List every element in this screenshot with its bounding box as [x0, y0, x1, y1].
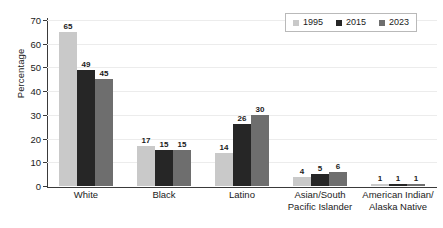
bar-value-label: 15: [178, 141, 187, 149]
bar-value-label: 26: [238, 115, 247, 123]
bar-value-label: 15: [160, 141, 169, 149]
y-tick-label: 20: [30, 133, 41, 144]
y-tick-mark: [43, 139, 47, 140]
y-tick-label: 40: [30, 86, 41, 97]
bar-group: 171515Black: [137, 20, 191, 186]
bar[interactable]: 1: [389, 184, 407, 186]
bar[interactable]: 15: [173, 150, 191, 186]
legend: 199520152023: [285, 13, 417, 32]
bar-value-label: 30: [256, 106, 265, 114]
bars: 456: [293, 20, 347, 186]
bar-group: 456Asian/SouthPacific Islander: [293, 20, 347, 186]
bars: 111: [371, 20, 425, 186]
bars: 142630: [215, 20, 269, 186]
x-axis-line: [47, 187, 437, 188]
bar[interactable]: 1: [407, 184, 425, 186]
bar-value-label: 1: [414, 175, 418, 183]
legend-swatch-icon: [293, 20, 299, 26]
plot-area: 010203040506070 654945White171515Black14…: [47, 20, 437, 186]
y-tick-mark: [43, 20, 47, 21]
y-tick-mark: [43, 44, 47, 45]
bar-value-label: 14: [220, 144, 229, 152]
bar[interactable]: 45: [95, 79, 113, 186]
y-tick-label: 50: [30, 62, 41, 73]
bar[interactable]: 15: [155, 150, 173, 186]
bar[interactable]: 26: [233, 124, 251, 186]
y-tick-mark: [43, 67, 47, 68]
legend-label: 2015: [346, 18, 366, 27]
bar[interactable]: 17: [137, 146, 155, 186]
bar-value-label: 65: [64, 23, 73, 31]
legend-label: 2023: [389, 18, 409, 27]
bar[interactable]: 5: [311, 174, 329, 186]
legend-label: 1995: [303, 18, 323, 27]
legend-item[interactable]: 2015: [336, 18, 366, 27]
bar-value-label: 45: [100, 70, 109, 78]
bar[interactable]: 14: [215, 153, 233, 186]
bar-value-label: 49: [82, 61, 91, 69]
bar-value-label: 5: [318, 165, 322, 173]
bar[interactable]: 6: [329, 172, 347, 186]
bar[interactable]: 49: [77, 70, 95, 186]
bar-group: 654945White: [59, 20, 113, 186]
x-axis-category-label: American Indian/Alaska Native: [343, 189, 443, 212]
y-tick-mark: [43, 162, 47, 163]
legend-item[interactable]: 1995: [293, 18, 323, 27]
legend-swatch-icon: [379, 20, 385, 26]
y-axis-title: Percentage: [15, 24, 26, 124]
legend-swatch-icon: [336, 20, 342, 26]
y-tick-label: 10: [30, 157, 41, 168]
bar-value-label: 6: [336, 163, 340, 171]
bar-value-label: 1: [396, 175, 400, 183]
bars: 171515: [137, 20, 191, 186]
bar[interactable]: 4: [293, 177, 311, 186]
bar-value-label: 1: [378, 175, 382, 183]
y-tick-mark: [43, 91, 47, 92]
bar-value-label: 4: [300, 168, 304, 176]
bar-value-label: 17: [142, 137, 151, 145]
bar-chart: Percentage 010203040506070 654945White17…: [0, 0, 443, 228]
y-tick-label: 70: [30, 15, 41, 26]
y-tick-mark: [43, 115, 47, 116]
legend-item[interactable]: 2023: [379, 18, 409, 27]
bar[interactable]: 30: [251, 115, 269, 186]
bar-group: 142630Latino: [215, 20, 269, 186]
bar-group: 111American Indian/Alaska Native: [371, 20, 425, 186]
bars: 654945: [59, 20, 113, 186]
y-tick-mark: [43, 186, 47, 187]
bar[interactable]: 1: [371, 184, 389, 186]
bar[interactable]: 65: [59, 32, 77, 186]
y-tick-label: 30: [30, 109, 41, 120]
y-tick-label: 60: [30, 38, 41, 49]
